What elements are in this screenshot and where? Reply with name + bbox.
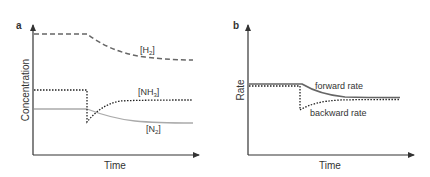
panel-letter-b: b bbox=[233, 20, 239, 31]
series-h2-label: [H2] bbox=[140, 45, 155, 56]
series-nh3-label: [NH3] bbox=[138, 87, 159, 98]
x-axis-label-b: Time bbox=[319, 160, 341, 171]
x-axis-label-a: Time bbox=[104, 160, 126, 171]
series-n2-line bbox=[34, 109, 193, 123]
series-forward-rate-label: forward rate bbox=[315, 81, 363, 91]
panel-a: a Time Concentration [H2] [N2] [NH3] bbox=[16, 20, 199, 171]
series-backward-rate-label: backward rate bbox=[310, 108, 367, 118]
y-axis-label-b: Rate bbox=[235, 79, 246, 101]
panel-b: b Time Rate backward rate forward rate bbox=[233, 20, 414, 171]
y-axis-label-a: Concentration bbox=[20, 59, 31, 121]
series-h2-line bbox=[34, 34, 193, 60]
panel-letter-a: a bbox=[16, 20, 22, 31]
figure: a Time Concentration [H2] [N2] [NH3] b T… bbox=[0, 0, 430, 177]
series-n2-label: [N2] bbox=[146, 124, 161, 135]
